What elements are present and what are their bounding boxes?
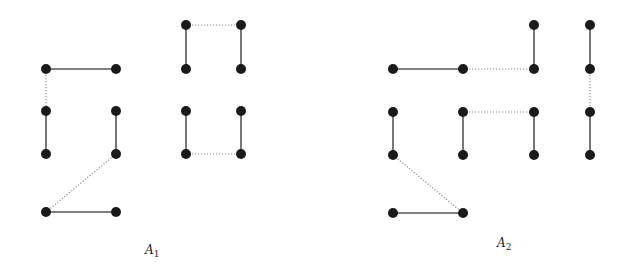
graph-label-a1: A1: [145, 243, 159, 259]
nodes: [41, 20, 246, 217]
vertex-node: [41, 207, 51, 217]
dotted-edge: [46, 154, 116, 212]
label-subscript: 2: [506, 242, 512, 252]
vertex-node: [458, 64, 468, 74]
vertex-node: [529, 20, 539, 30]
vertex-node: [181, 106, 191, 116]
nodes: [388, 20, 595, 218]
vertex-node: [111, 106, 121, 116]
vertex-node: [41, 106, 51, 116]
vertex-node: [529, 64, 539, 74]
vertex-node: [529, 107, 539, 117]
edges: [46, 25, 241, 212]
label-subscript: 1: [154, 249, 160, 259]
graph-diagram: [0, 0, 634, 280]
vertex-node: [458, 150, 468, 160]
vertex-node: [388, 208, 398, 218]
vertex-node: [585, 20, 595, 30]
graph-a2: [388, 20, 595, 218]
graph-label-a2: A2: [497, 236, 511, 252]
vertex-node: [181, 64, 191, 74]
vertex-node: [388, 64, 398, 74]
vertex-node: [236, 106, 246, 116]
vertex-node: [388, 107, 398, 117]
vertex-node: [388, 150, 398, 160]
vertex-node: [111, 207, 121, 217]
vertex-node: [585, 150, 595, 160]
dotted-edge: [393, 155, 463, 213]
vertex-node: [585, 107, 595, 117]
vertex-node: [458, 107, 468, 117]
vertex-node: [111, 149, 121, 159]
vertex-node: [181, 20, 191, 30]
vertex-node: [585, 64, 595, 74]
vertex-node: [529, 150, 539, 160]
vertex-node: [236, 20, 246, 30]
vertex-node: [458, 208, 468, 218]
edges: [393, 25, 590, 213]
label-letter: A: [145, 243, 154, 257]
vertex-node: [41, 149, 51, 159]
vertex-node: [236, 64, 246, 74]
label-letter: A: [497, 236, 506, 250]
graph-a1: [41, 20, 246, 217]
vertex-node: [236, 149, 246, 159]
vertex-node: [111, 64, 121, 74]
vertex-node: [41, 64, 51, 74]
vertex-node: [181, 149, 191, 159]
